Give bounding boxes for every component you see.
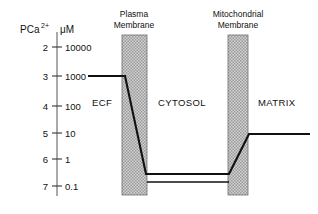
pca-value-label: 6 (43, 154, 48, 165)
concentration-value-label: 10000 (65, 42, 91, 53)
calcium-concentration-profile-line (88, 76, 310, 174)
pca-value-label: 5 (43, 128, 48, 139)
compartment-label-matrix: MATRIX (258, 97, 296, 108)
mitochondrial-membrane-label-line1: Mitochondrial (213, 9, 264, 19)
pca-value-label: 2 (43, 42, 48, 53)
figure-root: 2100003100041005106170.1 PCa 2+ μM Plasm… (0, 0, 318, 214)
mitochondrial-membrane-label-line2: Membrane (218, 20, 259, 30)
concentration-value-label: 100 (65, 101, 81, 112)
plasma-membrane-label-line2: Membrane (114, 20, 155, 30)
compartment-label-cytosol: CYTOSOL (158, 97, 206, 108)
axis-header-pca: PCa (20, 24, 40, 35)
concentration-value-label: 1 (65, 154, 70, 165)
calcium-gradient-diagram: 2100003100041005106170.1 PCa 2+ μM Plasm… (0, 0, 318, 214)
axis-tick-labels: 2100003100041005106170.1 (43, 42, 92, 192)
membrane-bands (122, 35, 248, 195)
axis-header-micromolar: μM (60, 24, 74, 35)
concentration-value-label: 10 (65, 128, 76, 139)
membrane-labels: Plasma Membrane Mitochondrial Membrane (114, 9, 264, 30)
axis-header-pca-superscript: 2+ (41, 22, 49, 29)
concentration-value-label: 1000 (65, 71, 86, 82)
plasma-membrane-band (122, 35, 147, 195)
compartment-label-ecf: ECF (92, 97, 112, 108)
pca-value-label: 3 (43, 71, 48, 82)
axis-header: PCa 2+ μM (20, 22, 74, 35)
concentration-value-label: 0.1 (65, 181, 78, 192)
pca-value-label: 4 (43, 101, 48, 112)
plasma-membrane-label-line1: Plasma (120, 9, 149, 19)
pca-value-label: 7 (43, 181, 48, 192)
